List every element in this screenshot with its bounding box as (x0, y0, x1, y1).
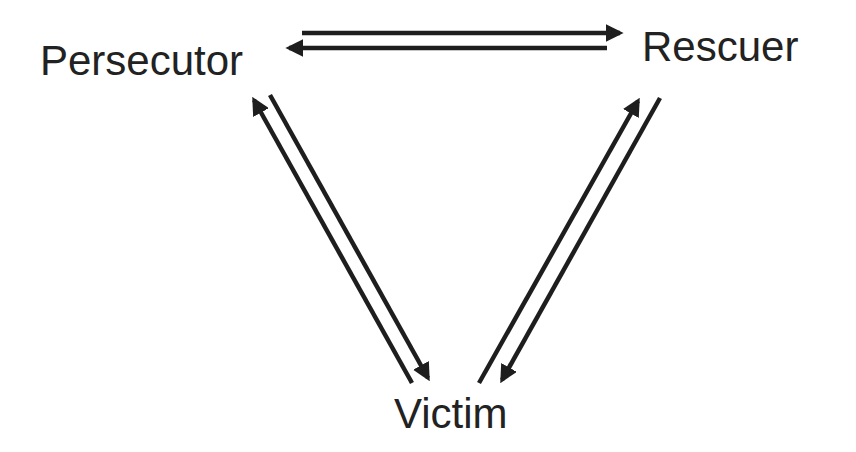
arrow-rescuer-to-victim (502, 98, 660, 380)
drama-triangle-diagram: Persecutor Rescuer Victim (0, 0, 856, 452)
arrows-layer (0, 0, 856, 452)
arrow-victim-to-persecutor (254, 100, 412, 383)
arrow-persecutor-to-victim (270, 95, 428, 378)
arrow-victim-to-rescuer (479, 101, 638, 383)
